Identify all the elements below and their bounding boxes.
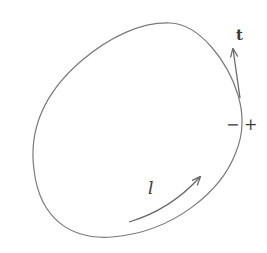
curve-direction-label: l (148, 180, 153, 197)
direction-arc-arrow (129, 177, 200, 222)
minus-side-label: − (226, 117, 239, 133)
plus-side-label: + (244, 117, 257, 133)
tangent-label: t (236, 28, 243, 43)
closed-curve (33, 23, 242, 237)
